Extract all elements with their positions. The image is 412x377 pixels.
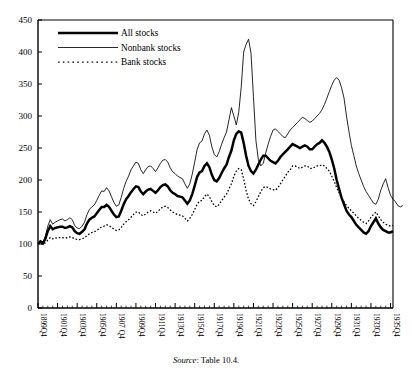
data-series-layer [38, 39, 403, 244]
x-tick-label: 1917Q4 [215, 313, 224, 337]
legend-label-bank-stocks: Bank stocks [121, 57, 167, 67]
x-tick-label: 1907 Q4 [117, 313, 126, 339]
x-tick-label: 1921Q4 [254, 313, 263, 337]
y-tick-label: 0 [28, 303, 33, 313]
series-line-bank-stocks [38, 165, 393, 245]
x-tick-label: 1911Q4 [157, 313, 166, 337]
y-tick-label: 150 [19, 207, 33, 217]
x-tick-label: 1923Q4 [274, 313, 283, 337]
y-tick-label: 400 [19, 47, 33, 57]
y-tick-label: 50 [23, 271, 33, 281]
chart-legend: All stocksNonbank stocksBank stocks [58, 28, 181, 67]
source-note: Source: Table 10.4. [0, 355, 412, 365]
y-tick-label: 200 [19, 175, 33, 185]
x-tick-label: 1919Q4 [235, 313, 244, 337]
plot-frame [38, 20, 393, 308]
x-tick-label: 1915Q4 [196, 313, 205, 337]
x-tick-label: 1933Q4 [372, 313, 381, 337]
y-tick-label: 100 [19, 239, 33, 249]
x-axis-tick-labels: 1899Q41901Q41903Q41905Q41907 Q41909Q4191… [39, 313, 401, 339]
x-axis-ticks [38, 303, 391, 308]
series-line-all-stocks [38, 131, 393, 244]
x-tick-label: 1925Q4 [294, 313, 303, 337]
x-tick-label: 1927Q4 [313, 313, 322, 337]
y-tick-label: 350 [19, 79, 33, 89]
x-tick-label: 1905Q4 [98, 313, 107, 337]
x-tick-label: 1901Q4 [59, 313, 68, 337]
line-chart-canvas: 050100150200250300350400450 All stocksNo… [0, 0, 412, 377]
x-tick-label: 1903Q4 [78, 313, 87, 337]
x-tick-label: 1935Q4 [392, 313, 401, 337]
stock-index-figure: 050100150200250300350400450 All stocksNo… [0, 0, 412, 377]
y-tick-label: 450 [19, 15, 33, 25]
y-tick-label: 250 [19, 143, 33, 153]
x-tick-label: 1899Q4 [39, 313, 48, 337]
legend-label-nonbank-stocks: Nonbank stocks [121, 43, 181, 53]
x-tick-label: 1929Q4 [333, 313, 342, 337]
x-tick-label: 1931Q4 [352, 313, 361, 337]
y-tick-label: 300 [19, 111, 33, 121]
x-tick-label: 1909Q4 [137, 313, 146, 337]
legend-label-all-stocks: All stocks [121, 28, 159, 38]
source-note-text: : Table 10.4. [196, 355, 239, 365]
x-tick-label: 1913Q4 [176, 313, 185, 337]
source-note-prefix: Source [173, 355, 197, 365]
